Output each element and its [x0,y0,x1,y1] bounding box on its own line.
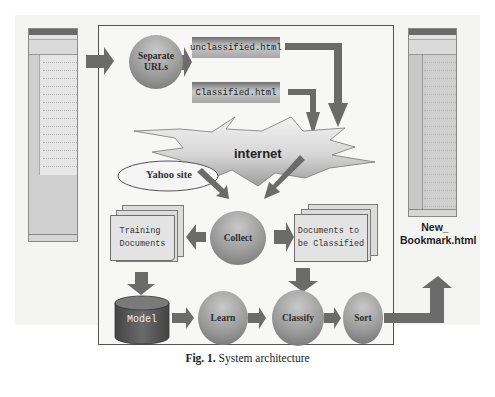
internet-label: internet [234,146,282,161]
documents-to-classify-node: Documents to be Classified [294,204,379,269]
new-bookmark-label: New_ Bookmark.html [400,221,470,246]
separate-urls-node: Separate URLs [129,35,183,89]
arrow-docs-to-classify [288,268,318,292]
new-bookmark-browser-window [408,28,457,217]
arrow-sort-to-new-bookmark [384,276,452,323]
separate-urls-line1: Separate [138,51,174,62]
learn-node: Learn [198,291,248,345]
separate-urls-line2: URLs [138,62,174,73]
unclassified-file-node: unclassified.html [192,37,280,58]
documents-to-classify-line1: Documents to [298,225,364,238]
collect-node: Collect [210,211,266,265]
arrow-input-to-separate [86,47,114,75]
new-bookmark-line1: New_ [400,221,470,234]
unclassified-file-label: unclassified.html [190,43,282,53]
arrow-model-to-learn [172,307,194,329]
sort-label: Sort [354,313,371,324]
figure-caption: Fig. 1. System architecture [0,352,495,364]
bookmark-menu-list [424,55,456,215]
arrow-collect-to-docs [274,222,294,252]
training-documents-line1: Training [120,225,166,238]
yahoo-site-label: Yahoo site [146,169,192,180]
documents-to-classify-line2: be Classified [298,238,364,251]
sort-node: Sort [343,292,383,344]
training-documents-node: Training Documents [110,205,185,270]
arrow-learn-to-classify [248,307,266,329]
classified-file-node: Classified.html [192,82,280,103]
training-documents-line2: Documents [120,238,166,251]
browser-toolbar [409,40,456,55]
figure-caption-label: Fig. 1. [185,352,215,364]
classify-label: Classify [282,313,314,324]
arrow-training-to-model [127,272,155,295]
new-bookmark-line2: Bookmark.html [400,234,470,247]
figure-caption-text: System architecture [216,352,310,364]
browser-status-bar [409,209,456,216]
arrow-classify-to-sort [324,307,341,329]
arrow-collect-to-training [186,224,206,250]
model-label: Model [115,314,169,325]
browser-sidebar [409,55,423,210]
classify-node: Classify [272,290,324,346]
classified-file-label: Classified.html [195,88,276,98]
learn-label: Learn [211,313,236,324]
collect-label: Collect [224,233,253,244]
